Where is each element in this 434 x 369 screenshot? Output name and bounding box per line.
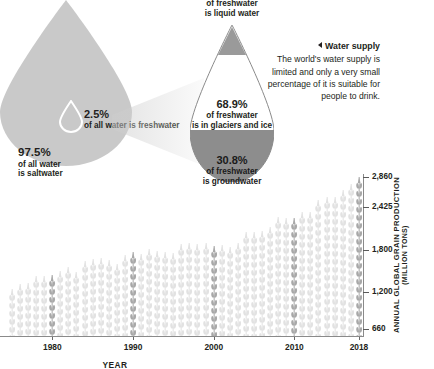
chart-bar <box>162 252 168 336</box>
wheat-stalk-icon <box>211 246 217 336</box>
wheat-stalk-icon <box>106 260 112 336</box>
wheat-stalk-icon <box>315 200 321 336</box>
wheat-stalk-icon <box>283 218 289 336</box>
y-tick-label: 1,800 <box>372 245 393 254</box>
wheat-stalk-icon <box>275 217 281 336</box>
chart-bar <box>315 200 321 336</box>
wheat-stalk-icon <box>186 243 192 336</box>
freshwater-inner-droplet <box>59 100 83 133</box>
chart-bar <box>324 197 330 336</box>
chart-bar <box>283 218 289 336</box>
wheat-stalk-icon <box>178 244 184 336</box>
wheat-stalk-icon <box>130 252 136 336</box>
chart-bar <box>178 244 184 336</box>
all-water-droplet <box>0 0 132 166</box>
wheat-stalk-icon <box>9 289 15 336</box>
wheat-stalk-icon <box>259 231 265 336</box>
wheat-stalk-icon <box>307 212 313 336</box>
wheat-stalk-icon <box>291 218 297 336</box>
chart-bar <box>267 227 273 336</box>
chart-bar <box>57 271 63 336</box>
chart-bar <box>122 255 128 336</box>
glacier-label-line1: of freshwater <box>206 111 257 120</box>
wheat-stalk-icon <box>33 276 39 336</box>
chart-bar <box>9 289 15 336</box>
saltwater-percent: 97.5% <box>18 146 110 160</box>
chart-bar <box>291 218 297 336</box>
y-tick-mark <box>363 207 369 208</box>
chart-bar <box>299 212 305 336</box>
chart-bar <box>219 245 225 336</box>
x-tick-mark <box>52 337 53 340</box>
freshwater-droplet-icon <box>59 100 83 133</box>
wheat-stalk-icon <box>203 243 209 336</box>
water-supply-body: The world's water supply is limited and … <box>268 54 380 101</box>
wheat-stalk-icon <box>41 276 47 336</box>
wheat-stalk-icon <box>98 258 104 336</box>
liquid-water-label-line1: of freshwater <box>206 0 257 8</box>
y-tick-label: 1,200 <box>372 287 393 296</box>
wheat-stalk-icon <box>194 244 200 336</box>
liquid-water-tip <box>218 27 246 55</box>
chart-bar <box>259 231 265 336</box>
chart-bar <box>17 284 23 336</box>
groundwater-percent: 30.8% <box>186 154 278 167</box>
glacier-label-line2: is in glaciers and ice <box>192 121 272 130</box>
chart-bar <box>170 253 176 336</box>
wheat-stalk-icon <box>114 264 120 336</box>
y-axis-title: ANNUAL GLOBAL GRAIN PRODUCTION (MILLION … <box>392 174 428 336</box>
x-tick-mark <box>133 337 134 340</box>
chart-bar <box>348 184 354 336</box>
wheat-stalk-icon <box>267 227 273 336</box>
x-tick-label: 1990 <box>116 342 150 352</box>
water-supply-heading: Water supply <box>262 40 380 52</box>
chart-bar <box>235 243 241 336</box>
water-supply-heading-text: Water supply <box>325 41 380 51</box>
x-tick-label: 2010 <box>277 342 311 352</box>
infographic-page: 2.5% of all water is freshwater 97.5% of… <box>0 0 434 369</box>
wheat-stalk-icon <box>332 197 338 336</box>
wheat-stalk-icon <box>227 247 233 336</box>
chart-bar <box>275 217 281 336</box>
wheat-stalk-icon <box>251 232 257 336</box>
chart-bar <box>114 264 120 336</box>
chart-bar <box>251 232 257 336</box>
chart-bar <box>65 267 71 336</box>
y-tick-label: 2,860 <box>372 172 393 181</box>
wheat-stalk-icon <box>57 271 63 336</box>
y-tick-mark <box>363 292 369 293</box>
chart-bar <box>356 177 362 336</box>
chart-bar <box>41 276 47 336</box>
y-tick-mark <box>363 177 369 178</box>
chart-bar <box>49 275 55 336</box>
chart-bar <box>98 258 104 336</box>
y-tick-label: 2,425 <box>372 202 393 211</box>
wheat-stalk-icon <box>65 267 71 336</box>
chart-bar <box>73 272 79 336</box>
chart-bar <box>211 246 217 336</box>
x-tick-mark <box>294 337 295 340</box>
wheat-stalk-icon <box>340 190 346 336</box>
y-tick-mark <box>363 329 369 330</box>
liquid-water-caption: of freshwater is liquid water <box>184 0 280 18</box>
y-axis-title-text: ANNUAL GLOBAL GRAIN PRODUCTION <box>392 177 401 333</box>
chart-bar <box>146 249 152 336</box>
chart-bar <box>186 243 192 336</box>
wheat-stalk-icon <box>90 259 96 336</box>
wheat-stalk-icon <box>138 254 144 336</box>
wheat-stalk-icon <box>235 243 241 336</box>
chart-bar <box>227 247 233 336</box>
chart-plot-area <box>8 174 363 336</box>
wheat-stalk-icon <box>170 253 176 336</box>
left-triangle-icon <box>318 42 322 48</box>
x-axis-title: YEAR <box>85 360 145 369</box>
wheat-stalk-icon <box>146 249 152 336</box>
glacier-caption: 68.9% of freshwater is in glaciers and i… <box>178 98 286 130</box>
wheat-stalk-icon <box>154 251 160 336</box>
wheat-stalk-icon <box>17 284 23 336</box>
chart-bar <box>203 243 209 336</box>
chart-bar <box>332 197 338 336</box>
grain-production-chart: 2,8602,4251,8001,200660 1980199020002010… <box>0 168 434 369</box>
x-tick-label: 2018 <box>342 342 376 352</box>
wheat-stalk-icon <box>348 184 354 336</box>
